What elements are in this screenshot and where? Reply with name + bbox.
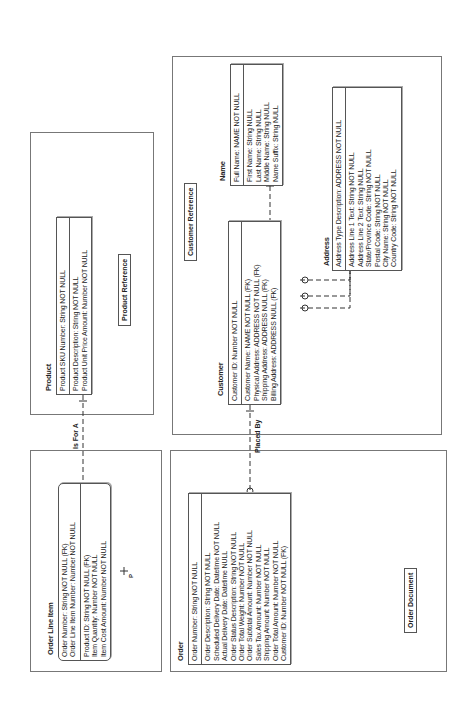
entity-title-address: Address <box>322 237 331 266</box>
shipping-amount: Shipping Amount: Number NOT NULL <box>263 497 271 661</box>
customer-keys: Customer ID: Number NOT NULL <box>229 222 242 404</box>
address-attributes: Address Line 1 Text: String NOT NULL Add… <box>346 88 400 270</box>
order-number-fk: Order Number: String NOT NULL (FK) <box>61 487 69 657</box>
last-name: Last Name: String NULL <box>255 68 263 182</box>
order-document-label: Order Document <box>404 568 417 633</box>
customer-id: Customer ID: Number NOT NULL <box>231 225 239 401</box>
product-attributes: Product Description: String NOT NULL Pro… <box>70 218 91 394</box>
address-line-2: Address Line 2 Text: String NULL <box>357 91 365 267</box>
order-line-item-number: Order Line Item Number: Number NOT NULL <box>69 487 77 657</box>
order-description: Order Description: String NOT NULL <box>204 497 212 661</box>
order-status-description: Order Status Description: String NOT NUL… <box>230 497 238 661</box>
entity-title-name: Name <box>218 161 227 181</box>
scheduled-delivery-date: Scheduled Delivery Date: Datetime NOT NU… <box>213 497 221 661</box>
order-attributes: Order Description: String NOT NULL Sched… <box>202 494 290 664</box>
entity-title-order-line-item: Order Line Item <box>46 603 55 655</box>
state-province-code: State/Province Code: String NOT NULL <box>365 91 373 267</box>
entity-title-product: Product <box>44 364 53 391</box>
entity-name[interactable]: Full Name: NAME NOT NULL First Name: Str… <box>230 64 283 186</box>
entity-address[interactable]: Address Type Description: ADDRESS NOT NU… <box>332 87 402 271</box>
item-cost-amount: Item Cost Amount: Number NOT NULL <box>100 487 108 657</box>
product-keys: Product SKU Number: String NOT NULL <box>57 218 70 394</box>
address-type-description: Address Type Description: ADDRESS NOT NU… <box>335 91 343 267</box>
customer-id-fk: Customer ID: Number NOT NULL (FK) <box>280 497 288 661</box>
customer-attributes: Customer Name: NAME NOT NULL (FK) Physic… <box>242 222 280 404</box>
name-keys: Full Name: NAME NOT NULL <box>231 65 244 185</box>
billing-address-fk: Billing Address: ADDRESS NULL (FK) <box>270 225 278 401</box>
er-diagram-canvas: Is For A Placed By Includes Includes May… <box>0 0 455 721</box>
country-code: Country Code: String NOT NULL <box>390 91 398 267</box>
entity-title-customer: Customer <box>216 363 225 396</box>
entity-title-order: Order <box>176 642 185 661</box>
order-line-item-attributes: Product ID: String NOT NULL (FK) Item Qu… <box>81 484 110 660</box>
product-reference-label: Product Reference <box>118 254 131 326</box>
first-name: First Name: String NULL <box>246 68 254 182</box>
item-quantity: Item Quantity: Number NOT NULL <box>91 487 99 657</box>
postal-code: Postal Code: String NOT NULL <box>374 91 382 267</box>
entity-product[interactable]: Product SKU Number: String NOT NULL Prod… <box>56 217 92 395</box>
order-total-amount: Order Total Amount: Number NOT NULL <box>272 497 280 661</box>
name-suffix: Name Suffix: String NULL <box>272 68 280 182</box>
product-unit-price: Product Unit Price Amount: Number NOT NU… <box>81 221 89 391</box>
actual-delivery-date: Actual Delivery Date: Datetime NULL <box>221 497 229 661</box>
address-line-1: Address Line 1 Text: String NOT NULL <box>348 91 356 267</box>
full-name: Full Name: NAME NOT NULL <box>233 68 241 182</box>
cardinality-p-line-item: P <box>128 574 134 578</box>
relationship-label-placed-by: Placed By <box>254 420 261 453</box>
entity-order[interactable]: Order Number: String NOT NULL Order Desc… <box>188 493 291 665</box>
sales-tax-amount: Sales Tax Amount: Number NOT NULL <box>255 497 263 661</box>
relationship-label-is-for-a: Is For A <box>72 423 79 449</box>
order-number: Order Number: String NOT NULL <box>191 497 199 661</box>
entity-order-line-item[interactable]: Order Number: String NOT NULL (FK) Order… <box>58 483 111 661</box>
order-keys: Order Number: String NOT NULL <box>189 494 202 664</box>
middle-name: Middle Name: String NULL <box>263 68 271 182</box>
order-line-item-keys: Order Number: String NOT NULL (FK) Order… <box>59 484 81 660</box>
product-id-fk: Product ID: String NOT NULL (FK) <box>83 487 91 657</box>
name-attributes: First Name: String NULL Last Name: Strin… <box>244 65 282 185</box>
customer-reference-label: Customer Reference <box>184 183 197 261</box>
order-subtotal-amount: Order Subtotal Amount: Number NOT NULL <box>246 497 254 661</box>
product-description: Product Description: String NOT NULL <box>72 221 80 391</box>
product-sku-number: Product SKU Number: String NOT NULL <box>59 221 67 391</box>
address-keys: Address Type Description: ADDRESS NOT NU… <box>333 88 346 270</box>
customer-name-fk: Customer Name: NAME NOT NULL (FK) <box>244 225 252 401</box>
entity-customer[interactable]: Customer ID: Number NOT NULL Customer Na… <box>228 221 281 405</box>
order-total-weight: Order Total Weight: Number NOT NULL <box>238 497 246 661</box>
shipping-address-fk: Shipping Address: ADDRESS NULL (FK) <box>261 225 269 401</box>
physical-address-fk: Physical Address: ADDRESS NOT NULL (FK) <box>253 225 261 401</box>
city-name: City Name: String NOT NULL <box>382 91 390 267</box>
